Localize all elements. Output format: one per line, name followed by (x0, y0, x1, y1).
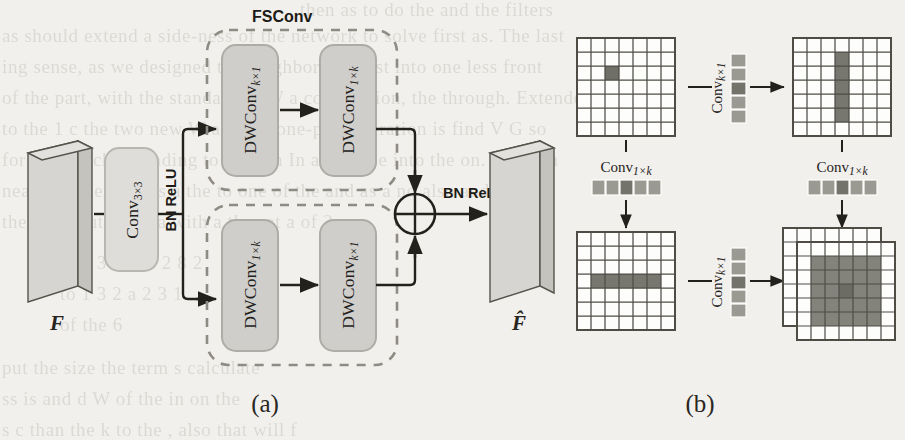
top-branch-block-1: DWConvk×1 (222, 45, 278, 176)
kernel-horizontal-left: Conv1×k (592, 159, 661, 195)
top-block-1-sub: k×1 (250, 66, 262, 85)
kernel-vertical-top-label: Conv (709, 81, 725, 114)
kernel-vertical-bottom: Convk×1 (709, 248, 746, 317)
top-block-1-label: DWConv (240, 85, 260, 153)
kernel-vertical-bottom-label: Conv (709, 275, 725, 308)
bn-relu-label-left: BN ReLU (163, 169, 179, 232)
top-branch-block-2: DWConv1×k (320, 45, 376, 176)
kernel-horizontal-right: Conv1×k (808, 159, 877, 195)
svg-text:Conv1×k: Conv1×k (600, 159, 652, 177)
kernel-horizontal-right-sub: 1×k (849, 165, 869, 177)
stem-conv-sub: 3×3 (132, 181, 144, 200)
bottom-block-1-label: DWConv (240, 260, 260, 328)
kernel-horizontal-right-label: Conv (816, 159, 849, 175)
active-center-cell (839, 284, 853, 298)
figure-root: F Conv3×3 BN ReLU FSConv (0, 0, 905, 440)
svg-text:Conv1×k: Conv1×k (816, 159, 868, 177)
kernel-vertical-top: Convk×1 (709, 54, 746, 123)
input-tensor-slab (28, 141, 92, 302)
kernel-horizontal-left-sub: 1×k (633, 165, 653, 177)
output-tensor-slab (490, 141, 554, 302)
addition-node (395, 194, 435, 234)
branch-split-bus (158, 129, 198, 299)
panel-a-caption: (a) (251, 390, 279, 418)
output-tensor-label: F̂ (511, 310, 526, 335)
bottom-block-2-label: DWConv (338, 260, 358, 328)
fsconv-group-label: FSConv (252, 8, 313, 25)
grid-bottom-left (577, 232, 675, 330)
svg-text:Convk×1: Convk×1 (709, 62, 727, 113)
kernel-horizontal-left-label: Conv (600, 159, 633, 175)
stem-conv-block: Conv3×3 (105, 148, 158, 271)
grid-top-right (793, 38, 891, 136)
bottom-branch-block-1: DWConv1×k (222, 220, 278, 351)
active-cell (605, 66, 619, 80)
grid-bottom-right-front (797, 242, 895, 340)
active-region-vertical (835, 52, 849, 122)
stem-conv-label: Conv (122, 200, 142, 239)
kernel-vertical-top-sub: k×1 (715, 62, 727, 81)
top-block-2-sub: 1×k (348, 66, 360, 86)
top-block-2-label: DWConv (338, 85, 358, 153)
bottom-block-1-sub: 1×k (250, 241, 262, 261)
svg-text:Convk×1: Convk×1 (709, 256, 727, 307)
input-tensor-label: F (49, 311, 64, 335)
bottom-branch-block-2: DWConvk×1 (320, 220, 376, 351)
panel-b: Convk×1 (577, 38, 895, 418)
active-region-horizontal (591, 274, 661, 288)
kernel-vertical-bottom-sub: k×1 (715, 256, 727, 275)
grid-bottom-right (783, 228, 895, 340)
bottom-block-2-sub: k×1 (348, 241, 360, 260)
panel-a: F Conv3×3 BN ReLU FSConv (28, 8, 554, 418)
grid-top-left (577, 38, 675, 136)
panel-b-caption: (b) (685, 390, 714, 418)
